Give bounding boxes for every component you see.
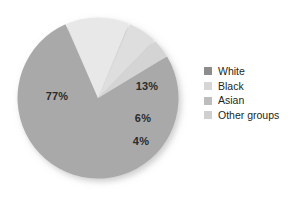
- pie-plot-area: 77% 13% 6% 4%: [0, 0, 196, 202]
- slice-label-black: 13%: [136, 80, 159, 92]
- slice-label-white: 77%: [46, 90, 69, 102]
- legend-swatch-icon: [204, 97, 212, 105]
- legend-item-white: White: [204, 64, 303, 79]
- legend-item-black: Black: [204, 79, 303, 94]
- slice-label-asian: 6%: [135, 112, 151, 124]
- legend-swatch-icon: [204, 82, 212, 90]
- slice-label-other-groups: 4%: [133, 135, 149, 147]
- pie-slices-group: [17, 18, 178, 179]
- legend-label: Black: [218, 81, 244, 92]
- legend-label: Asian: [218, 95, 244, 106]
- chart-legend: White Black Asian Other groups: [204, 64, 303, 123]
- pie-svg: [0, 0, 196, 202]
- legend-swatch-icon: [204, 67, 212, 75]
- legend-label: White: [218, 66, 245, 77]
- legend-swatch-icon: [204, 111, 212, 119]
- legend-item-asian: Asian: [204, 93, 303, 108]
- legend-item-other-groups: Other groups: [204, 108, 303, 123]
- legend-label: Other groups: [218, 110, 279, 121]
- pie-chart-figure: 77% 13% 6% 4% White Black Asian Other gr…: [0, 0, 303, 202]
